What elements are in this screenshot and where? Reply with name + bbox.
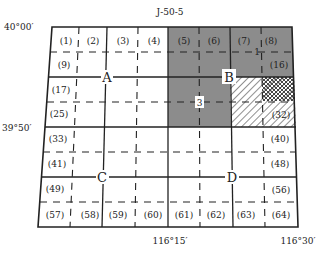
quadrant-b: B [224,70,234,85]
cell-5: (5) [178,36,191,46]
cell-64: (64) [272,210,290,220]
cell-41: (41) [48,159,66,169]
cell-6: (6) [208,36,221,46]
cell-63: (63) [237,210,255,220]
cell-9: (9) [58,60,71,70]
marker-3: 3 [197,98,203,108]
cell-62: (62) [207,210,225,220]
cell-25: (25) [50,109,68,119]
lat-middle-label: 39°50′ [2,123,31,133]
cell-61: (61) [175,210,193,220]
cell-3: (3) [117,36,130,46]
cell-7: (7) [238,36,251,46]
quadrant-a: A [101,70,112,85]
cell-57: (57) [46,210,64,220]
cell-59: (59) [109,210,127,220]
cell-60: (60) [144,210,162,220]
cell-32: (32) [272,110,290,120]
cross-hatched-area [262,77,295,101]
cell-49: (49) [46,184,64,194]
map-sheet-diagram: J-50-5 40°00′ 39°50′ 116°15′ 116°30′ A B… [0,0,325,254]
lon-middle-label: 116°15′ [152,236,187,246]
cell-17: (17) [52,85,70,95]
cell-2: (2) [87,36,100,46]
cell-48: (48) [271,159,289,169]
cell-40: (40) [271,134,289,144]
cell-16: (16) [270,60,288,70]
cell-33: (33) [49,134,67,144]
cell-8: (8) [265,36,278,46]
lon-right-label: 116°30′ [280,236,315,246]
quadrant-d: D [227,170,237,185]
cell-58: (58) [81,210,99,220]
cell-56: (56) [272,185,290,195]
sheet-number: J-50-5 [156,7,184,17]
cell-4: (4) [148,36,161,46]
quadrant-c: C [97,170,107,185]
cell-1: (1) [60,36,73,46]
lat-top-label: 40°00′ [4,22,33,32]
marker-1: 1 [254,47,260,57]
